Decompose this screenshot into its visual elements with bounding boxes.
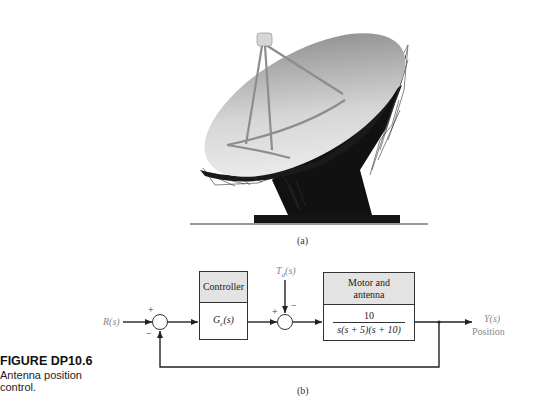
plant-numerator: 10 xyxy=(360,310,378,322)
controller-header-text: Controller xyxy=(203,281,244,293)
plant-denominator: s(s + 5)(s + 10) xyxy=(333,322,405,335)
sum1-minus-sign: − xyxy=(146,328,152,339)
plant-header-line2: antenna xyxy=(353,289,384,301)
controller-block: Gc(s) xyxy=(199,303,248,340)
figure-caption-line-2: control. xyxy=(0,381,36,393)
input-label: R(s) xyxy=(103,316,120,327)
sum1-plus-sign: + xyxy=(148,304,154,315)
figure-title: FIGURE DP10.6 xyxy=(0,354,92,368)
output-sublabel: Position xyxy=(472,326,505,337)
sum2-minus-sign: − xyxy=(291,300,297,311)
figure-caption-line-1: Antenna position xyxy=(0,369,82,381)
controller-transfer-function: Gc(s) xyxy=(213,314,234,328)
block-diagram-wires xyxy=(0,0,545,407)
plant-block-header: Motor and antenna xyxy=(323,272,415,305)
plant-header-line1: Motor and xyxy=(348,277,390,289)
summing-junction-2 xyxy=(278,315,293,330)
plant-block: 10 s(s + 5)(s + 10) xyxy=(323,305,415,341)
takeoff-point xyxy=(437,320,440,323)
plant-transfer-function: 10 s(s + 5)(s + 10) xyxy=(333,310,405,335)
output-label: Y(s) xyxy=(484,313,500,324)
panel-b-label: (b) xyxy=(297,385,309,396)
summing-junction-1 xyxy=(153,315,168,330)
controller-block-header: Controller xyxy=(199,271,248,303)
disturbance-label: Td(s) xyxy=(276,265,296,279)
sum2-plus-sign: + xyxy=(272,306,278,317)
